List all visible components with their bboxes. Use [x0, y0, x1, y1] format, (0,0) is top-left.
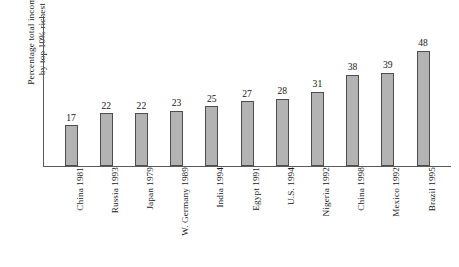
- bar-column: 22: [123, 16, 159, 166]
- x-axis-tick-label: China 1998: [335, 167, 371, 263]
- x-axis-tick-label: Japan 1979: [123, 167, 159, 263]
- bar-value-label: 22: [137, 101, 147, 111]
- x-axis-tick-label: Egypt 1991: [229, 167, 265, 263]
- bar-value-label: 27: [242, 89, 252, 99]
- x-axis-tick-label: Brazil 1995: [405, 167, 441, 263]
- bar: [170, 111, 183, 166]
- x-axis-tick-label: Nigeria 1992: [299, 167, 335, 263]
- bar-value-label: 25: [207, 94, 217, 104]
- bar-value-label: 38: [348, 62, 358, 72]
- x-axis-tick-label: India 1994: [194, 167, 230, 263]
- bar: [205, 106, 218, 166]
- bar: [417, 51, 430, 166]
- x-axis-tick-label: Mexico 1992: [370, 167, 406, 263]
- bar-value-label: 17: [66, 113, 76, 123]
- bar: [276, 99, 289, 166]
- bar: [381, 73, 394, 166]
- bar-chart: Percentage total income by top 10% riche…: [0, 0, 459, 267]
- bar: [241, 101, 254, 166]
- bar-column: 38: [335, 16, 371, 166]
- bar-column: 48: [405, 16, 441, 166]
- plot-area: 1722222325272831383948: [44, 16, 451, 166]
- x-axis-tick-label: U.S. 1994: [264, 167, 300, 263]
- bar: [346, 75, 359, 166]
- x-axis-tick-label-text: Russia 1993: [111, 167, 120, 213]
- bar-column: 22: [88, 16, 124, 166]
- bar-column: 31: [299, 16, 335, 166]
- bar-column: 23: [159, 16, 195, 166]
- x-axis-tick-label: Russia 1993: [88, 167, 124, 263]
- bar-column: 27: [229, 16, 265, 166]
- bar-value-label: 31: [313, 79, 323, 89]
- x-axis-tick-label: China 1981: [53, 167, 89, 263]
- x-axis-tick-label-text: Brazil 1995: [428, 167, 437, 211]
- x-axis-tick-label-text: Mexico 1992: [392, 167, 401, 217]
- x-axis-tick-label-text: Japan 1979: [146, 167, 155, 210]
- x-axis-category-labels: China 1981Russia 1993Japan 1979W. German…: [44, 167, 451, 265]
- bar-column: 39: [370, 16, 406, 166]
- x-axis-tick-label-text: W. Germany 1989: [181, 167, 190, 236]
- x-axis-tick-label-text: Egypt 1991: [252, 167, 261, 211]
- bar-column: 25: [194, 16, 230, 166]
- bar: [311, 92, 324, 166]
- bar-value-label: 23: [172, 98, 182, 108]
- bar: [135, 113, 148, 166]
- x-axis-tick-label-text: Nigeria 1992: [322, 167, 331, 216]
- y-axis-title-line-1: Percentage total income: [26, 0, 37, 85]
- x-axis-tick-label-text: China 1998: [357, 167, 366, 211]
- bar: [65, 125, 78, 166]
- x-axis-tick-label-text: India 1994: [216, 167, 225, 208]
- bar-value-label: 48: [418, 38, 428, 48]
- x-axis-tick-label-text: U.S. 1994: [287, 167, 296, 205]
- x-axis-tick-label-text: China 1981: [76, 167, 85, 211]
- x-axis-tick-label: W. Germany 1989: [159, 167, 195, 263]
- bar-column: 17: [53, 16, 89, 166]
- bar-value-label: 28: [277, 86, 287, 96]
- bar-value-label: 22: [101, 101, 111, 111]
- bar: [100, 113, 113, 166]
- bar-value-label: 39: [383, 60, 393, 70]
- bar-column: 28: [264, 16, 300, 166]
